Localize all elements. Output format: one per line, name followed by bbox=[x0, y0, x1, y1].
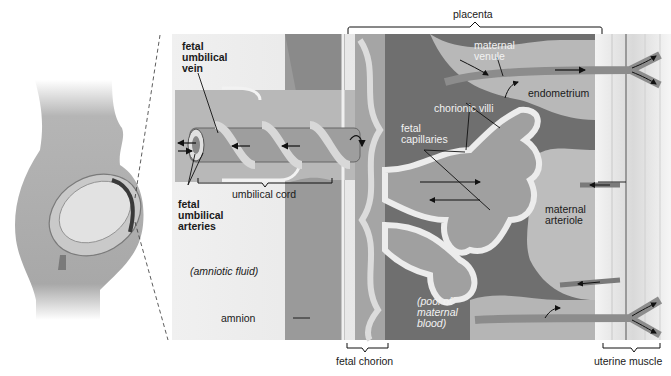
label-chorionic-villi: chorionic villi bbox=[434, 103, 494, 114]
label-placenta: placenta bbox=[453, 9, 493, 20]
diagram-artwork bbox=[0, 0, 671, 376]
placenta-diagram: placenta fetal umbilical vein fetal umbi… bbox=[0, 0, 671, 376]
zoom-line-top bbox=[135, 35, 160, 198]
label-fetal-umbilical-arteries: fetal umbilical arteries bbox=[178, 199, 224, 232]
umbilical-cord bbox=[178, 125, 362, 165]
label-fetal-capillaries: fetal capillaries bbox=[401, 123, 448, 145]
pregnant-body-illustration bbox=[15, 80, 156, 320]
label-uterine-muscle: uterine muscle bbox=[594, 356, 662, 367]
label-endometrium: endometrium bbox=[528, 88, 589, 99]
label-umbilical-cord: umbilical cord bbox=[232, 189, 296, 200]
label-amniotic-fluid: (amniotic fluid) bbox=[190, 266, 258, 277]
label-maternal-arteriole: maternal arteriole bbox=[545, 204, 586, 226]
label-maternal-venule: maternal venule bbox=[474, 40, 515, 62]
label-fetal-umbilical-vein: fetal umbilical vein bbox=[182, 41, 228, 74]
label-pool-of-maternal-blood: (pool of maternal blood) bbox=[417, 296, 458, 329]
zoom-line-bottom bbox=[135, 222, 168, 340]
label-fetal-chorion: fetal chorion bbox=[336, 356, 393, 367]
label-amnion: amnion bbox=[221, 313, 255, 324]
